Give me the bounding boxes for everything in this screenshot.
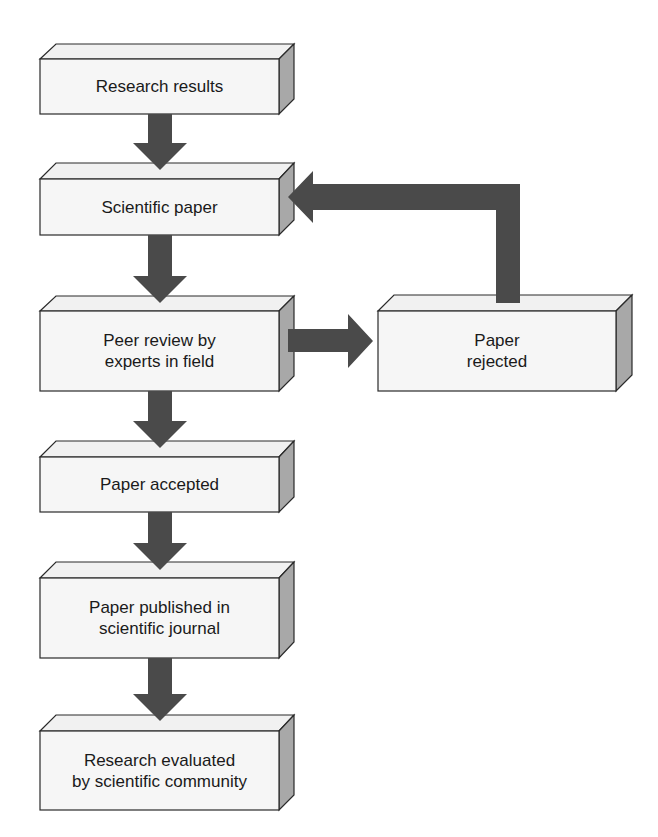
- flowchart-canvas: [0, 0, 658, 837]
- arrow-down-icon: [133, 391, 187, 448]
- box-side-face: [279, 562, 294, 658]
- arrow-right-icon: [288, 314, 373, 368]
- box-side-face: [279, 715, 294, 810]
- node-label-research-evaluated: Research evaluated by scientific communi…: [40, 731, 279, 810]
- box-top-face: [40, 441, 294, 457]
- node-label-paper-published: Paper published in scientific journal: [40, 578, 279, 658]
- node-label-peer-review: Peer review by experts in field: [40, 311, 279, 391]
- box-top-face: [40, 562, 294, 578]
- arrow-down-icon: [133, 658, 187, 721]
- box-top-face: [40, 296, 294, 311]
- box-top-face: [40, 715, 294, 731]
- node-label-scientific-paper: Scientific paper: [40, 179, 279, 235]
- node-label-research-results: Research results: [40, 59, 279, 114]
- box-side-face: [616, 295, 632, 391]
- arrow-down-icon: [133, 114, 187, 170]
- arrow-loop-back-icon: [288, 171, 520, 303]
- box-top-face: [40, 163, 294, 179]
- arrow-down-icon: [133, 512, 187, 570]
- arrow-down-icon: [133, 235, 187, 303]
- box-top-face: [40, 44, 294, 59]
- node-label-paper-accepted: Paper accepted: [40, 457, 279, 512]
- node-label-paper-rejected: Paper rejected: [378, 311, 616, 391]
